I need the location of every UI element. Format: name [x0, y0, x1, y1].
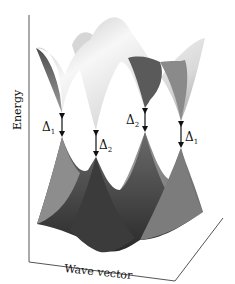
gap-label-4: Δ1	[185, 130, 198, 146]
gap-label-2: Δ2	[99, 138, 112, 154]
gap-arrows	[62, 111, 181, 154]
upper-band-surface	[36, 17, 205, 130]
lower-band-surface	[37, 132, 203, 252]
energy-axis-label: Energy	[11, 89, 24, 130]
depth-axis-line	[175, 218, 223, 281]
gap-label-3: Δ2	[126, 113, 139, 129]
wavevector-axis-label: Wave vector	[64, 262, 134, 282]
gap-label-1: Δ1	[42, 120, 55, 136]
band-structure-diagram: Δ1 Δ2 Δ2 Δ1 Energy Wave vector	[0, 0, 235, 284]
